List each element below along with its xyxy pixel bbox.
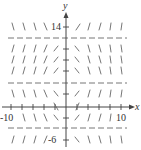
slope-field-diagram: y x 14 -6 -10 10 (0, 0, 141, 150)
equilibrium-lines (8, 38, 127, 128)
y-max-tick-label: 14 (51, 21, 61, 32)
y-min-tick-label: -6 (48, 134, 56, 145)
x-max-tick-label: 10 (116, 112, 126, 123)
axes (2, 16, 132, 147)
x-min-tick-label: -10 (0, 112, 13, 123)
y-axis-label: y (62, 0, 68, 11)
x-axis-label: x (134, 101, 140, 112)
y-axis-arrow-icon (64, 12, 69, 18)
